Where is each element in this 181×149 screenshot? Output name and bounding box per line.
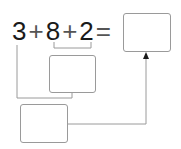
result-box[interactable] bbox=[123, 13, 171, 52]
partial-sum-box[interactable] bbox=[49, 55, 96, 93]
bracket-8-plus-2 bbox=[54, 42, 91, 48]
arrow-up-icon bbox=[143, 52, 149, 59]
total-box[interactable] bbox=[20, 104, 68, 143]
